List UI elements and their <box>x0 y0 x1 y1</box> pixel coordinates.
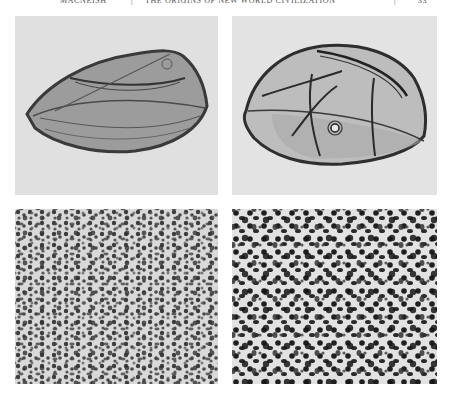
running-head-title: THE ORIGINS OF NEW WORLD CIVILIZATION <box>145 0 336 5</box>
running-head-separator: | <box>131 0 133 5</box>
phytolith-image <box>232 16 437 195</box>
running-head-separator: | <box>394 0 396 5</box>
micrograph-bottom-left <box>15 209 218 384</box>
running-head: MACNEISH | THE ORIGINS OF NEW WORLD CIVI… <box>0 0 452 6</box>
micrograph-top-left <box>15 16 218 195</box>
micrograph-top-right <box>232 16 437 195</box>
running-head-author: MACNEISH <box>60 0 107 5</box>
micrograph-bottom-right <box>232 209 437 384</box>
surface-texture-image <box>232 209 437 384</box>
surface-texture-image <box>15 209 218 384</box>
phytolith-image <box>15 16 218 195</box>
page-number: 33 <box>418 0 427 5</box>
